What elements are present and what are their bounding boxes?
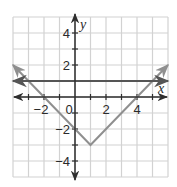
x-tick-label: −2 xyxy=(34,102,49,117)
x-tick-label: 4 xyxy=(133,102,140,117)
y-axis-label: y xyxy=(78,17,87,32)
coordinate-plane: −202442−2−4xy xyxy=(0,0,177,187)
y-tick-label: −4 xyxy=(55,154,70,169)
y-tick-label: 4 xyxy=(63,26,70,41)
y-tick-label: 2 xyxy=(63,58,70,73)
x-axis-label: x xyxy=(157,81,165,96)
x-tick-label: 0 xyxy=(65,102,72,117)
y-tick-label: −2 xyxy=(55,122,70,137)
tick-labels: −202442−2−4xy xyxy=(34,17,165,169)
x-tick-label: 2 xyxy=(102,102,109,117)
